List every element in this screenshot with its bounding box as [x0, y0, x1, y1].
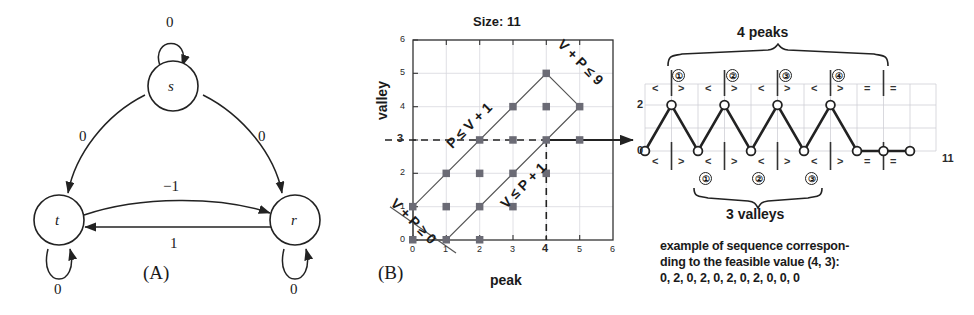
xtick-1: 1: [443, 244, 448, 254]
panel-a-tag: (A): [143, 262, 169, 284]
sequence-length-label: 11: [942, 152, 954, 164]
ytick-6: 6: [400, 34, 405, 44]
bottom-comparator-5: <: [758, 155, 764, 167]
chart-xlabel: peak: [490, 272, 522, 288]
self-loop-r: [282, 249, 307, 279]
self-loop-s-weight: 0: [166, 14, 174, 31]
self-loop-t: [46, 249, 71, 279]
bottom-comparator-6: >: [784, 155, 790, 167]
bottom-comparator-2: >: [678, 155, 684, 167]
peak-index-1: ①: [672, 69, 685, 82]
edge-weight-t-r: −1: [163, 178, 179, 195]
xtick-0: 0: [410, 244, 415, 254]
xtick-5: 5: [577, 244, 582, 254]
feasible-region-outline: [413, 73, 580, 240]
ytick-0: 0: [400, 234, 405, 244]
node-label-t: t: [55, 212, 59, 229]
top-comparator-2: >: [678, 82, 684, 94]
bottom-comparator-8: >: [837, 155, 843, 167]
bottom-comparator-4: >: [731, 155, 737, 167]
node-label-s: s: [168, 78, 174, 95]
xtick-2: 2: [477, 244, 482, 254]
peaks-brace: [660, 44, 900, 68]
bottom-comparator-7: <: [811, 155, 817, 167]
edge-weight-s-r: 0: [258, 128, 266, 145]
peak-index-3: ③: [779, 69, 792, 82]
xtick-6: 6: [610, 244, 615, 254]
edge-t-to-r: [84, 200, 270, 215]
top-comparator-3: <: [705, 82, 711, 94]
valleys-label: 3 valleys: [726, 206, 784, 222]
top-comparator-6: >: [784, 82, 790, 94]
automaton-diagram: [0, 0, 380, 315]
caption-line-3: 0, 2, 0, 2, 0, 2, 0, 2, 0, 0, 0: [660, 270, 960, 286]
chart-points: [409, 70, 583, 244]
top-comparator-5: <: [758, 82, 764, 94]
bottom-comparator-3: <: [705, 155, 711, 167]
sequence-caption: example of sequence correspon- ding to t…: [660, 238, 960, 286]
edge-weight-s-t: 0: [79, 128, 87, 145]
bottom-comparator-10: =: [890, 155, 896, 167]
top-comparator-8: >: [837, 82, 843, 94]
ytick-4: 4: [400, 101, 405, 111]
sequence-y-high-label: 2: [637, 98, 643, 110]
xtick-3: 3: [510, 244, 515, 254]
peaks-label: 4 peaks: [737, 24, 788, 40]
ytick-5: 5: [400, 67, 405, 77]
top-comparator-4: >: [731, 82, 737, 94]
chart-ylabel: valley: [374, 81, 390, 120]
figure-root: s t r 0 0 0 0 0 −1 1 (A) (B) Size: 11: [0, 0, 974, 315]
bottom-comparator-1: <: [652, 155, 658, 167]
peak-index-4: ④: [832, 69, 845, 82]
valley-index-3: ③: [805, 172, 818, 185]
ytick-2: 2: [400, 167, 405, 177]
sequence-zigzag-plot: [630, 82, 974, 187]
self-loop-t-weight: 0: [54, 281, 62, 298]
sequence-grid: [645, 84, 936, 151]
bottom-comparator-9: =: [864, 155, 870, 167]
caption-line-2: ding to the feasible value (4, 3):: [660, 254, 960, 270]
top-comparator-10: =: [890, 82, 896, 94]
self-loop-r-weight: 0: [290, 281, 298, 298]
edge-s-to-r: [203, 95, 282, 193]
caption-line-1: example of sequence correspon-: [660, 238, 960, 254]
sequence-y-low-label: 0: [637, 144, 643, 156]
ytick-3: 3: [397, 132, 403, 144]
top-comparator-7: <: [811, 82, 817, 94]
valley-index-2: ②: [752, 172, 765, 185]
top-comparator-9: =: [864, 82, 870, 94]
xtick-4: 4: [542, 242, 548, 254]
valley-index-1: ①: [699, 172, 712, 185]
peak-index-2: ②: [726, 69, 739, 82]
node-label-r: r: [291, 212, 297, 229]
top-comparator-1: <: [652, 82, 658, 94]
edge-weight-r-t: 1: [170, 235, 178, 252]
